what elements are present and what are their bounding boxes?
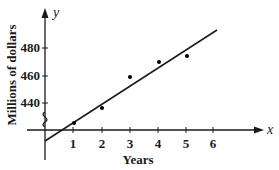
data-point <box>128 75 132 79</box>
data-point <box>185 54 189 58</box>
y-axis-var: y <box>51 5 60 20</box>
x-tick-label: 3 <box>127 136 134 151</box>
x-axis-arrow-icon <box>254 127 264 134</box>
y-tick-label: 480 <box>21 40 41 55</box>
x-tick-label: 1 <box>70 136 77 151</box>
y-tick-label: 460 <box>21 68 41 83</box>
x-axis-title: Years <box>122 152 153 167</box>
data-point <box>100 106 104 110</box>
y-axis-title: Millions of dollars <box>4 24 19 125</box>
data-points <box>72 54 189 125</box>
x-tick-label: 5 <box>183 136 190 151</box>
y-tick-label: 440 <box>21 95 41 110</box>
data-point <box>72 121 76 125</box>
y-axis-arrow-icon <box>42 8 49 18</box>
best-fit-line <box>45 30 217 141</box>
x-tick-label: 6 <box>210 136 217 151</box>
x-tick-label: 4 <box>155 136 162 151</box>
x-tick-label: 2 <box>99 136 106 151</box>
scatter-chart: y x 480 460 440 1 2 3 4 5 6 Years Millio… <box>0 0 279 170</box>
data-point <box>157 60 161 64</box>
x-axis-var: x <box>266 122 274 137</box>
y-ticks: 480 460 440 <box>21 40 49 110</box>
